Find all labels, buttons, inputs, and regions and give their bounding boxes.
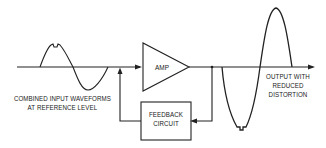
input-caption-line1: COMBINED INPUT WAVEFORMS xyxy=(13,94,112,103)
feedback-line-in xyxy=(120,71,141,121)
feedback-label: FEEDBACK CIRCUIT xyxy=(145,110,188,128)
input-arrow-icon xyxy=(135,65,142,70)
feedback-label-line2: CIRCUIT xyxy=(145,119,188,128)
output-caption-line3: DISTORTION xyxy=(262,90,314,99)
summing-arrow-icon xyxy=(118,68,123,75)
output-caption-line2: REDUCED xyxy=(262,81,314,90)
input-caption: COMBINED INPUT WAVEFORMS AT REFERENCE LE… xyxy=(13,94,112,112)
feedback-amplifier-diagram: AMP FEEDBACK CIRCUIT COMBINED INPUT WAVE… xyxy=(0,0,326,148)
input-caption-line2: AT REFERENCE LEVEL xyxy=(13,103,112,112)
output-waveform xyxy=(222,8,292,130)
feedback-label-line1: FEEDBACK xyxy=(145,110,188,119)
output-caption-line1: OUTPUT WITH xyxy=(262,72,314,81)
output-caption: OUTPUT WITH REDUCED DISTORTION xyxy=(262,72,314,99)
feedback-line-out xyxy=(195,67,212,121)
output-arrow-icon xyxy=(308,65,315,70)
amp-label: AMP xyxy=(145,63,179,72)
